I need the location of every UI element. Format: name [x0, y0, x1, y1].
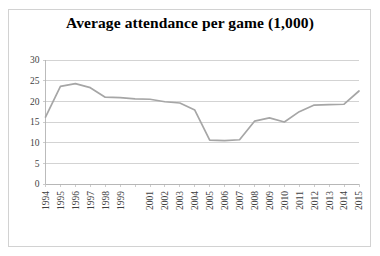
x-axis-tick-label: 2007: [235, 191, 245, 210]
x-axis-tick-label: 2002: [160, 191, 170, 210]
data-series-group: [46, 84, 360, 141]
x-axis-tick-label: 2003: [175, 191, 185, 210]
line-chart-plot: 051015202530 199419951996199719981999200…: [0, 0, 380, 256]
y-axis-tick-label: 0: [35, 179, 40, 189]
y-axis-tick-label: 5: [35, 159, 40, 169]
x-axis-tick-label: 2005: [205, 191, 215, 210]
y-axis-tick-label: 30: [30, 55, 40, 65]
x-axis-tick-label: 2004: [190, 191, 200, 210]
x-axis-tick-label: 2012: [310, 191, 320, 210]
x-axis-tick-label: 2009: [265, 191, 275, 210]
x-axis-tick-label: 1998: [101, 191, 111, 210]
y-axis-tick-labels: 051015202530: [30, 55, 40, 189]
x-axis-tick-label: 1994: [41, 191, 51, 210]
x-axis-tick-label: 1997: [86, 191, 96, 210]
y-axis-tick-label: 25: [30, 76, 40, 86]
x-axis-tick-labels: 1994199519961997199819992001200220032004…: [41, 191, 365, 210]
x-axis-tick-label: 2014: [339, 191, 349, 210]
y-axis-tick-label: 20: [30, 97, 40, 107]
x-axis-tick-label: 2001: [145, 191, 155, 210]
x-axis-tick-label: 1999: [116, 191, 126, 210]
x-axis-tick-label: 1995: [56, 191, 66, 210]
x-axis-tick-label: 2013: [325, 191, 335, 210]
x-axis-tick-label: 1996: [71, 191, 81, 210]
x-axis-tick-label: 2008: [250, 191, 260, 210]
y-axis-tick-label: 10: [30, 138, 40, 148]
x-axis-tick-label: 2010: [280, 191, 290, 210]
data-line-series: [46, 84, 360, 141]
x-axis-tick-label: 2006: [220, 191, 230, 210]
x-axis-tick-label: 2015: [354, 191, 364, 210]
x-axis-tick-label: 2011: [295, 191, 305, 210]
chart-figure: Average attendance per game (1,000) 0510…: [0, 0, 380, 256]
y-axis-tick-label: 15: [30, 117, 40, 127]
